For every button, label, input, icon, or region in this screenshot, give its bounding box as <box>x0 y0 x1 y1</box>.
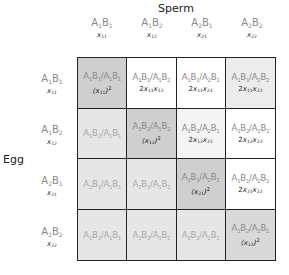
egg-haplotype-header: A1B1x11 <box>30 73 74 96</box>
haplotype-frequency: x21 <box>177 30 227 40</box>
genotype-frequency: 2x11x22 <box>238 84 262 94</box>
haplotype-frequency: x22 <box>30 239 74 249</box>
haplotype-label: A1B2 <box>30 124 74 136</box>
haplotype-frequency: x12 <box>127 30 177 40</box>
genotype-label: A2B1/A2B1 <box>182 171 220 183</box>
sperm-haplotype-header: A2B2x22 <box>227 17 277 40</box>
genotype-label: A2B1/A2B2 <box>232 172 270 184</box>
haplotype-label: A1B1 <box>77 17 127 29</box>
haplotype-label: A2B2 <box>30 226 74 238</box>
genotype-frequency: 2x12x21 <box>189 135 213 145</box>
genotype-label: A2B2/A2B2 <box>232 222 270 234</box>
sperm-haplotype-header: A2B1x21 <box>177 17 227 40</box>
haplotype-frequency: x22 <box>227 30 277 40</box>
genotype-frequency: 2x21x22 <box>238 185 262 195</box>
genotype-cell: A1B1/A2B12x11x21 <box>177 58 226 109</box>
sperm-haplotype-header: A1B1x11 <box>77 17 127 40</box>
genotype-label: A1B1/A1B1 <box>83 70 121 82</box>
genotype-label: A1B2/A1B1 <box>83 127 121 139</box>
sperm-haplotype-header: A1B2x12 <box>127 17 177 40</box>
haplotype-label: A2B1 <box>30 175 74 187</box>
genotype-cell: A2B2/A1B2 <box>127 210 176 261</box>
genotype-cell: A1B2/A1B1 <box>78 109 127 160</box>
genotype-label: A1B2/A2B2 <box>232 122 270 134</box>
haplotype-label: A1B1 <box>30 73 74 85</box>
genotype-cell: A1B1/A1B1(x11)2 <box>78 58 127 109</box>
genotype-label: A2B2/A2B1 <box>182 229 220 241</box>
genotype-cell: A2B1/A2B1(x21)2 <box>177 159 226 210</box>
genotype-frequency: (x22)2 <box>241 235 260 248</box>
haplotype-label: A1B2 <box>127 17 177 29</box>
egg-haplotype-header: A2B1x21 <box>30 175 74 198</box>
genotype-cell: A2B2/A2B2(x22)2 <box>226 210 275 261</box>
genotype-label: A1B1/A2B2 <box>232 71 270 83</box>
genotype-frequency: 2x11x12 <box>139 84 163 94</box>
genotype-frequency: (x12)2 <box>142 133 161 146</box>
genotype-frequency: 2x11x21 <box>189 84 213 94</box>
genotype-cell: A1B2/A2B12x12x21 <box>177 109 226 160</box>
haplotype-frequency: x11 <box>30 86 74 96</box>
genotype-label: A1B2/A1B2 <box>133 120 171 132</box>
genotype-label: A2B1/A1B2 <box>133 178 171 190</box>
genotype-cell: A1B1/A1B22x11x12 <box>127 58 176 109</box>
genotype-cell: A2B1/A2B22x21x22 <box>226 159 275 210</box>
egg-haplotype-header: A2B2x22 <box>30 226 74 249</box>
genotype-cell: A1B2/A2B22x12x22 <box>226 109 275 160</box>
genotype-label: A1B2/A2B1 <box>182 122 220 134</box>
punnett-square-grid: A1B1/A1B1(x11)2A1B1/A1B22x11x12A1B1/A2B1… <box>77 57 276 261</box>
genotype-frequency: (x21)2 <box>191 184 210 197</box>
haplotype-frequency: x21 <box>30 188 74 198</box>
genotype-cell: A1B1/A2B22x11x22 <box>226 58 275 109</box>
genotype-cell: A2B2/A2B1 <box>177 210 226 261</box>
genotype-label: A1B1/A2B1 <box>182 71 220 83</box>
genotype-cell: A1B2/A1B2(x12)2 <box>127 109 176 160</box>
sperm-label: Sperm <box>146 2 206 15</box>
genotype-cell: A2B1/A1B2 <box>127 159 176 210</box>
genotype-label: A2B2/A1B2 <box>133 229 171 241</box>
genotype-frequency: 2x12x22 <box>238 135 262 145</box>
haplotype-label: A2B2 <box>227 17 277 29</box>
haplotype-frequency: x11 <box>77 30 127 40</box>
egg-label: Egg <box>3 153 24 166</box>
egg-haplotype-header: A1B2x12 <box>30 124 74 147</box>
genotype-label: A1B1/A1B2 <box>133 71 171 83</box>
genotype-label: A2B1/A1B1 <box>83 178 121 190</box>
haplotype-label: A2B1 <box>177 17 227 29</box>
genotype-cell: A2B2/A1B1 <box>78 210 127 261</box>
haplotype-frequency: x12 <box>30 137 74 147</box>
genotype-label: A2B2/A1B1 <box>83 229 121 241</box>
genotype-frequency: (x11)2 <box>93 83 112 96</box>
genotype-cell: A2B1/A1B1 <box>78 159 127 210</box>
